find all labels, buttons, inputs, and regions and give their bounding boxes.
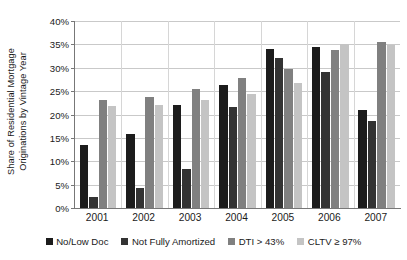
- bar: [126, 134, 134, 208]
- bar: [192, 89, 200, 208]
- bar-group: [261, 21, 307, 208]
- x-axis-tick-labels: 2001200220032004200520062007: [74, 212, 399, 226]
- x-axis-tick-label: 2004: [225, 212, 248, 223]
- y-axis-tick-label: 40%: [50, 16, 69, 27]
- y-axis-title-line-1: Share of Residential Mortgage: [6, 47, 16, 174]
- bar-group: [121, 21, 167, 208]
- legend-swatch-icon: [228, 238, 235, 245]
- bar-series-container: [75, 21, 400, 208]
- bar: [89, 197, 97, 208]
- y-axis-tick-label: 20%: [50, 109, 69, 120]
- bar: [377, 42, 385, 208]
- legend-label: No/Low Doc: [56, 236, 108, 247]
- chart-figure: Share of Residential Mortgage Originatio…: [0, 0, 407, 260]
- y-axis-tick-label: 15%: [50, 132, 69, 143]
- category-separator: [168, 21, 169, 208]
- bar: [108, 106, 116, 208]
- bar: [145, 97, 153, 208]
- bar: [219, 85, 227, 208]
- bar: [387, 45, 395, 208]
- bar: [331, 50, 339, 208]
- bar: [136, 188, 144, 208]
- legend-item[interactable]: DTI > 43%: [228, 236, 284, 247]
- bar: [312, 47, 320, 208]
- y-axis-title-line-2: Originations by Vintage Year: [17, 47, 29, 174]
- x-axis-tick-label: 2002: [132, 212, 155, 223]
- legend-label: CLTV ≥ 97%: [308, 236, 362, 247]
- bar-group: [168, 21, 214, 208]
- bar: [247, 94, 255, 208]
- bar: [238, 78, 246, 208]
- y-axis-tick-label: 25%: [50, 86, 69, 97]
- category-separator: [354, 21, 355, 208]
- x-axis-line: [75, 208, 401, 209]
- bar: [99, 100, 107, 208]
- bar: [340, 44, 348, 208]
- y-axis-title: Share of Residential Mortgage Originatio…: [0, 0, 34, 222]
- bar: [173, 105, 181, 208]
- bar-group: [354, 21, 400, 208]
- y-axis-tick-label: 10%: [50, 156, 69, 167]
- legend-swatch-icon: [121, 238, 128, 245]
- y-axis-tick-label: 0%: [55, 203, 69, 214]
- bar: [80, 145, 88, 208]
- category-separator: [121, 21, 122, 208]
- bar: [275, 58, 283, 208]
- bar-group: [75, 21, 121, 208]
- x-axis-tick-label: 2006: [318, 212, 341, 223]
- bar: [368, 121, 376, 208]
- y-axis-tick-label: 5%: [55, 179, 69, 190]
- legend-item[interactable]: Not Fully Amortized: [121, 236, 215, 247]
- x-axis-tick-label: 2005: [272, 212, 295, 223]
- bar: [182, 169, 190, 208]
- bar: [284, 69, 292, 208]
- y-axis-tick-label: 35%: [50, 39, 69, 50]
- bar-group: [214, 21, 260, 208]
- bar: [321, 72, 329, 209]
- legend-label: Not Fully Amortized: [132, 236, 215, 247]
- legend-swatch-icon: [297, 238, 304, 245]
- bar: [229, 107, 237, 208]
- x-axis-tick-label: 2007: [364, 212, 387, 223]
- chart-legend: No/Low DocNot Fully AmortizedDTI > 43%CL…: [0, 236, 407, 247]
- x-axis-tick-label: 2003: [179, 212, 202, 223]
- bar-group: [307, 21, 353, 208]
- x-axis-tick-label: 2001: [86, 212, 109, 223]
- legend-swatch-icon: [46, 238, 53, 245]
- legend-item[interactable]: No/Low Doc: [46, 236, 109, 247]
- bar: [266, 49, 274, 208]
- plot-area: 0%5%10%15%20%25%30%35%40%: [74, 21, 400, 208]
- y-axis-tick-label: 30%: [50, 62, 69, 73]
- legend-label: DTI > 43%: [239, 236, 285, 247]
- category-separator: [214, 21, 215, 208]
- bar: [294, 83, 302, 208]
- bar: [155, 105, 163, 208]
- bar: [201, 100, 209, 208]
- bar: [358, 110, 366, 208]
- legend-item[interactable]: CLTV ≥ 97%: [297, 236, 361, 247]
- category-separator: [307, 21, 308, 208]
- category-separator: [261, 21, 262, 208]
